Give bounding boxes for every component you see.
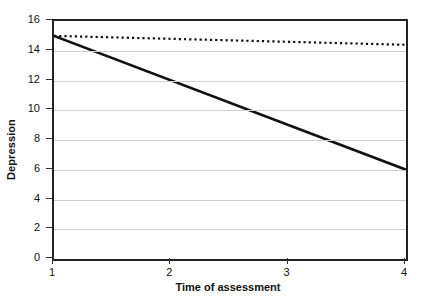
gridline [54, 81, 406, 82]
chart-figure: Depression 1614121086420 Time of assessm… [0, 0, 428, 299]
y-tick-label: 16 [0, 13, 45, 25]
plot-inner [54, 21, 406, 259]
x-tick-label: 2 [166, 266, 172, 278]
y-tick-mark [46, 79, 52, 80]
series-dotted-line [54, 36, 406, 45]
x-tick-mark [52, 258, 53, 264]
y-tick-mark [46, 227, 52, 228]
x-tick-mark [404, 258, 405, 264]
gridline [54, 110, 406, 111]
y-tick-label: 8 [0, 132, 45, 144]
y-tick-mark [46, 198, 52, 199]
y-tick-label: 12 [0, 73, 45, 85]
x-tick-label: 4 [401, 266, 407, 278]
gridline [54, 140, 406, 141]
x-tick-mark [169, 258, 170, 264]
x-tick-mark [287, 258, 288, 264]
y-tick-mark [46, 19, 52, 20]
gridline [54, 51, 406, 52]
y-tick-mark [46, 168, 52, 169]
y-axis-tick-labels: 1614121086420 [0, 0, 45, 299]
y-tick-mark [46, 49, 52, 50]
y-tick-label: 2 [0, 221, 45, 233]
series-solid-line [54, 36, 406, 170]
x-axis-title: Time of assessment [52, 281, 404, 293]
x-tick-label: 3 [284, 266, 290, 278]
y-tick-label: 14 [0, 43, 45, 55]
gridline [54, 229, 406, 230]
y-tick-mark [46, 108, 52, 109]
gridline [54, 170, 406, 171]
y-tick-label: 6 [0, 162, 45, 174]
y-tick-mark [46, 138, 52, 139]
gridline [54, 200, 406, 201]
y-tick-label: 10 [0, 102, 45, 114]
plot-area [52, 19, 408, 261]
y-tick-label: 0 [0, 251, 45, 263]
x-tick-label: 1 [49, 266, 55, 278]
y-tick-label: 4 [0, 192, 45, 204]
